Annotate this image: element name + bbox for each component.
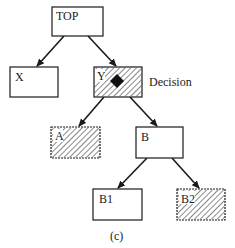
node-a-label: A <box>55 129 64 143</box>
edge-top-x <box>37 36 64 66</box>
node-b1-label: B1 <box>99 192 113 206</box>
node-x-label: X <box>15 70 24 84</box>
node-x: X <box>10 67 58 97</box>
node-a: A <box>51 127 100 158</box>
node-y: Y <box>94 67 142 97</box>
figure-caption: (c) <box>110 229 123 243</box>
edge-y-a <box>79 97 104 126</box>
node-b1: B1 <box>93 189 142 220</box>
node-top-label: TOP <box>56 9 79 23</box>
node-b2: B2 <box>177 189 225 220</box>
decision-annotation: Decision <box>149 75 192 89</box>
node-b2-label: B2 <box>181 192 195 206</box>
node-b-label: B <box>141 130 149 144</box>
edge-b-b2 <box>172 158 199 188</box>
edge-y-b <box>130 97 157 126</box>
node-top: TOP <box>52 7 103 36</box>
node-b: B <box>136 127 183 158</box>
tree-diagram: TOP X Y Decision A B B1 B2 (c) <box>0 0 235 248</box>
edges <box>37 36 199 188</box>
node-y-label: Y <box>97 69 106 83</box>
edge-b-b1 <box>118 158 147 188</box>
edge-top-y <box>88 36 116 66</box>
